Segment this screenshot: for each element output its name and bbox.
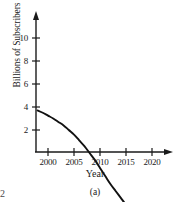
- y-tick-label-2: 2: [10, 125, 28, 135]
- x-tick-label-2020: 2020: [143, 157, 160, 167]
- plot-background: [36, 20, 172, 152]
- x-tick-label-2005: 2005: [65, 157, 82, 167]
- x-tick-label-2000: 2000: [39, 157, 56, 167]
- figure-container: 10 8 6 4 2 2000 2005 2010 2015 2020 Bill…: [0, 0, 176, 202]
- x-tick-label-2015: 2015: [117, 157, 134, 167]
- y-axis-label: Billions of Subscribers: [12, 0, 22, 105]
- page-number: 2: [0, 188, 5, 199]
- y-axis-arrow-icon: [33, 11, 39, 20]
- x-tick-label-2010: 2010: [91, 157, 108, 167]
- x-axis-label: Year: [0, 168, 176, 179]
- figure-caption: (a): [0, 187, 176, 197]
